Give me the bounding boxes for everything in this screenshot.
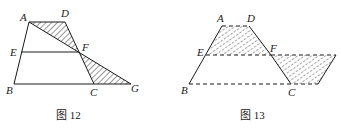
label-C: C [288,86,296,98]
label-D: D [246,12,255,24]
label-B: B [6,84,13,96]
figure-13: A D E F B C 图 13 [181,12,336,121]
label-E: E [9,46,17,58]
label-D: D [60,7,69,19]
caption-figure-13: 图 13 [240,109,265,121]
diagram-canvas: A D E F B C G 图 12 A D E F B C 图 13 [0,0,341,130]
label-F: F [81,41,89,53]
label-B: B [181,84,188,96]
caption-figure-12: 图 12 [56,109,81,121]
label-C: C [90,86,98,98]
label-G: G [131,82,139,94]
label-A: A [216,12,224,24]
label-F: F [269,42,277,54]
label-A: A [19,11,27,23]
segment-AG [29,22,131,84]
figure-12: A D E F B C G 图 12 [6,7,139,121]
shaded-trapezoid-AEFD [206,26,271,55]
label-E: E [196,46,204,58]
